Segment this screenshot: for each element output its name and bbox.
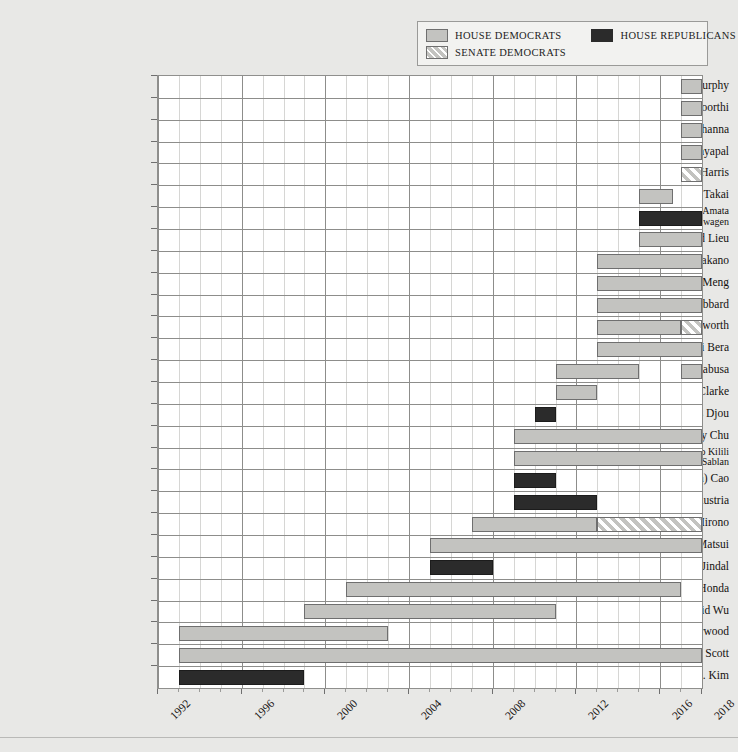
x-axis-tick-1992 bbox=[157, 689, 158, 694]
legend-label-house-democrats: HOUSE DEMOCRATS bbox=[455, 30, 561, 41]
x-axis-label-2016: 2016 bbox=[670, 697, 695, 722]
x-axis-tick-1997 bbox=[262, 689, 263, 692]
bottom-rule bbox=[0, 737, 738, 738]
gridline-horizontal bbox=[158, 622, 702, 623]
x-axis-tick-2002 bbox=[366, 689, 367, 692]
bar-segment[interactable] bbox=[179, 626, 388, 641]
gridline-horizontal bbox=[158, 644, 702, 645]
bar-segment[interactable] bbox=[639, 189, 672, 204]
x-axis-tick-2009 bbox=[513, 689, 514, 692]
x-axis-tick-2003 bbox=[387, 689, 388, 692]
x-axis-tick-2014 bbox=[617, 689, 618, 692]
bar-segment[interactable] bbox=[597, 254, 702, 269]
gridline-vertical-2018 bbox=[702, 76, 703, 688]
x-axis-label-1996: 1996 bbox=[251, 697, 276, 722]
gridline-horizontal bbox=[158, 491, 702, 492]
bar-segment[interactable] bbox=[556, 364, 640, 379]
bar-segment[interactable] bbox=[681, 145, 702, 160]
legend-label-senate-democrats: SENATE DEMOCRATS bbox=[455, 47, 566, 58]
x-axis-label-2008: 2008 bbox=[503, 697, 528, 722]
gridline-horizontal bbox=[158, 142, 702, 143]
x-axis-tick-2012 bbox=[575, 689, 576, 694]
x-axis-tick-2007 bbox=[471, 689, 472, 692]
x-axis-tick-1999 bbox=[303, 689, 304, 692]
x-axis-tick-1995 bbox=[220, 689, 221, 692]
legend-label-house-republicans: HOUSE REPUBLICANS bbox=[620, 30, 735, 41]
chart-canvas: HOUSE DEMOCRATS HOUSE REPUBLICANS SENATE… bbox=[0, 0, 738, 752]
gridline-horizontal bbox=[158, 338, 702, 339]
bar-segment[interactable] bbox=[535, 407, 556, 422]
bar-segment[interactable] bbox=[681, 364, 702, 379]
gridline-horizontal bbox=[158, 448, 702, 449]
bar-segment[interactable] bbox=[556, 385, 598, 400]
x-axis-tick-2000 bbox=[324, 689, 325, 694]
x-axis-tick-2010 bbox=[534, 689, 535, 692]
x-axis-tick-2017 bbox=[680, 689, 681, 692]
gridline-horizontal bbox=[158, 513, 702, 514]
legend-swatch-senate-democrats bbox=[426, 46, 448, 59]
bar-segment[interactable] bbox=[430, 538, 702, 553]
gridline-horizontal bbox=[158, 666, 702, 667]
gridline-horizontal bbox=[158, 207, 702, 208]
bar-segment[interactable] bbox=[514, 473, 556, 488]
legend-row-1: HOUSE DEMOCRATS HOUSE REPUBLICANS bbox=[426, 27, 699, 44]
bar-segment[interactable] bbox=[597, 320, 681, 335]
x-axis-label-2018: 2018 bbox=[712, 697, 737, 722]
gridline-horizontal bbox=[158, 535, 702, 536]
bar-segment[interactable] bbox=[597, 276, 702, 291]
chart-legend: HOUSE DEMOCRATS HOUSE REPUBLICANS SENATE… bbox=[417, 21, 708, 66]
gridline-horizontal bbox=[158, 557, 702, 558]
bar-segment[interactable] bbox=[472, 517, 598, 532]
bar-segment[interactable] bbox=[681, 167, 702, 182]
x-axis-tick-1996 bbox=[241, 689, 242, 694]
x-axis-tick-2018 bbox=[701, 689, 702, 694]
gridline-horizontal bbox=[158, 120, 702, 121]
x-axis-tick-1993 bbox=[178, 689, 179, 692]
bar-segment[interactable] bbox=[639, 211, 702, 226]
bar-segment[interactable] bbox=[179, 670, 305, 685]
bar-segment[interactable] bbox=[514, 495, 598, 510]
bar-segment[interactable] bbox=[681, 320, 702, 335]
bar-segment[interactable] bbox=[179, 648, 702, 663]
bar-segment[interactable] bbox=[597, 298, 702, 313]
gridline-horizontal bbox=[158, 601, 702, 602]
bar-segment[interactable] bbox=[597, 342, 702, 357]
bar-segment[interactable] bbox=[597, 517, 702, 532]
gridline-horizontal bbox=[158, 469, 702, 470]
gridline-horizontal bbox=[158, 163, 702, 164]
x-axis-tick-1994 bbox=[199, 689, 200, 692]
x-axis-tick-2005 bbox=[429, 689, 430, 692]
gridline-horizontal bbox=[158, 426, 702, 427]
bar-segment[interactable] bbox=[681, 123, 702, 138]
bar-segment[interactable] bbox=[639, 232, 702, 247]
gridline-horizontal bbox=[158, 579, 702, 580]
plot-area bbox=[157, 75, 703, 689]
legend-swatch-house-democrats bbox=[426, 29, 448, 42]
gridline-horizontal bbox=[158, 360, 702, 361]
bar-segment[interactable] bbox=[304, 604, 555, 619]
x-axis-tick-1998 bbox=[283, 689, 284, 692]
bar-segment[interactable] bbox=[681, 101, 702, 116]
x-axis-tick-2015 bbox=[638, 689, 639, 692]
x-axis-label-2004: 2004 bbox=[419, 697, 444, 722]
x-axis-label-2012: 2012 bbox=[586, 697, 611, 722]
x-axis-tick-2006 bbox=[450, 689, 451, 692]
x-axis-tick-2011 bbox=[555, 689, 556, 692]
gridline-horizontal bbox=[158, 273, 702, 274]
gridline-horizontal bbox=[158, 404, 702, 405]
bar-segment[interactable] bbox=[681, 79, 702, 94]
gridline-horizontal bbox=[158, 98, 702, 99]
legend-item-senate-democrats: SENATE DEMOCRATS bbox=[426, 46, 566, 59]
bar-segment[interactable] bbox=[430, 560, 493, 575]
x-axis-label-2000: 2000 bbox=[335, 697, 360, 722]
gridline-horizontal bbox=[158, 229, 702, 230]
gridline-horizontal bbox=[158, 382, 702, 383]
bar-segment[interactable] bbox=[514, 451, 702, 466]
legend-item-house-republicans: HOUSE REPUBLICANS bbox=[591, 29, 735, 42]
bar-segment[interactable] bbox=[346, 582, 681, 597]
x-axis-tick-2016 bbox=[659, 689, 660, 694]
gridline-horizontal bbox=[158, 316, 702, 317]
legend-item-house-democrats: HOUSE DEMOCRATS bbox=[426, 29, 561, 42]
bar-segment[interactable] bbox=[514, 429, 702, 444]
x-axis-tick-2004 bbox=[408, 689, 409, 694]
